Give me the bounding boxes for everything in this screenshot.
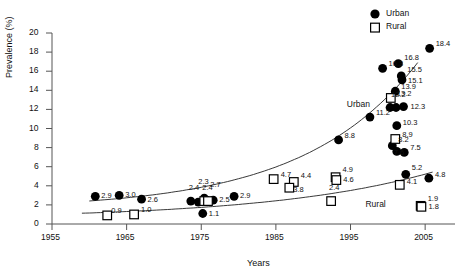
y-tick-label: 0 — [34, 219, 39, 228]
y-tick-label: 2 — [34, 200, 39, 209]
data-point-label: 11.2 — [376, 109, 390, 117]
data-point-label: 5.2 — [412, 164, 422, 172]
data-point-urban — [91, 192, 100, 201]
data-point-urban — [392, 103, 401, 112]
y-tick-label: 18 — [29, 47, 38, 56]
data-point-label: 4.7 — [281, 171, 291, 179]
data-point-label: 15.1 — [408, 77, 423, 85]
y-tick-label: 8 — [34, 143, 39, 152]
x-tick-label: 1965 — [116, 233, 135, 242]
data-point-label: 1.8 — [428, 203, 438, 211]
data-point-urban — [334, 136, 343, 145]
x-tick-label: 2005 — [414, 233, 433, 242]
data-point-rural — [417, 203, 426, 212]
x-tick-label: 1975 — [190, 233, 209, 242]
data-point-label: 10.3 — [403, 119, 418, 127]
data-point-label: 4.4 — [301, 172, 311, 180]
data-point-rural — [327, 197, 336, 206]
y-axis-title: Prevalence (%) — [4, 16, 14, 78]
data-point-label: 7.6 — [394, 149, 404, 157]
data-point-label: 12.3 — [411, 103, 426, 111]
y-tick-label: 4 — [34, 181, 39, 190]
plot-area — [0, 0, 463, 277]
y-tick-label: 16 — [29, 66, 38, 75]
data-point-label: 2.9 — [101, 192, 111, 200]
legend-label-rural: Rural — [386, 21, 406, 31]
data-point-label: 2.5 — [219, 196, 229, 204]
data-point-label: 2.6 — [148, 196, 158, 204]
data-point-label: 7.5 — [410, 144, 420, 152]
data-point-label: 3.0 — [125, 191, 135, 199]
y-tick-label: 10 — [29, 124, 38, 133]
trend-curve-urban — [89, 63, 417, 201]
data-point-rural — [130, 210, 139, 219]
data-point-label: 1.1 — [209, 210, 219, 218]
data-point-label: 13.2 — [397, 90, 412, 98]
data-point-label: 8.8 — [345, 132, 355, 140]
data-point-rural — [395, 181, 404, 190]
legend-markers — [369, 8, 383, 38]
data-point-urban — [366, 113, 375, 122]
data-point-rural — [204, 197, 213, 206]
data-point-urban — [198, 209, 207, 218]
data-point-label: 4.6 — [343, 176, 353, 184]
data-point-label: 3.8 — [293, 186, 303, 194]
legend-label-urban: Urban — [386, 8, 409, 18]
data-point-label: 8.9 — [402, 131, 412, 139]
data-point-label: 4.8 — [435, 171, 445, 179]
x-tick-label: 1985 — [265, 233, 284, 242]
data-point-label: 16.8 — [404, 54, 419, 62]
data-point-urban — [115, 191, 124, 200]
data-point-label: 0.9 — [111, 207, 121, 215]
scatter-chart-figure: Prevalence (%) Years Urban Rural 2.93.02… — [0, 0, 463, 277]
data-point-urban — [399, 102, 408, 111]
data-point-label: 18.4 — [436, 40, 451, 48]
legend-urban-marker-icon — [370, 9, 379, 18]
data-point-rural — [269, 175, 278, 184]
y-tick-label: 20 — [29, 28, 38, 37]
data-markers — [91, 44, 434, 220]
data-point-label: 4.1 — [407, 178, 417, 186]
x-tick-label: 1955 — [41, 233, 60, 242]
data-point-urban — [378, 64, 387, 73]
data-point-label: 16.3 — [389, 60, 404, 68]
x-tick-label: 1995 — [340, 233, 359, 242]
curve-annotation-rural: Rural — [365, 199, 385, 209]
data-point-label: 4.9 — [343, 166, 353, 174]
data-point-urban — [137, 195, 146, 204]
data-point-urban — [392, 121, 401, 130]
x-axis-title: Years — [247, 258, 270, 268]
x-axis-ticks — [52, 224, 425, 230]
data-point-urban — [425, 44, 434, 53]
y-axis-ticks — [46, 33, 52, 224]
y-tick-label: 6 — [34, 162, 39, 171]
data-point-label: 15.5 — [407, 66, 422, 74]
data-point-urban — [230, 192, 239, 201]
data-point-urban — [186, 197, 195, 206]
legend-rural-marker-icon — [371, 23, 380, 32]
data-point-label: 2.4 — [202, 184, 212, 192]
data-point-label: 1.0 — [141, 206, 151, 214]
y-tick-label: 12 — [29, 104, 38, 113]
data-point-urban — [424, 174, 433, 183]
data-point-label: 2.4 — [329, 184, 339, 192]
y-tick-label: 14 — [29, 85, 38, 94]
data-point-label: 2.9 — [240, 192, 250, 200]
curve-annotation-urban: Urban — [347, 99, 370, 109]
